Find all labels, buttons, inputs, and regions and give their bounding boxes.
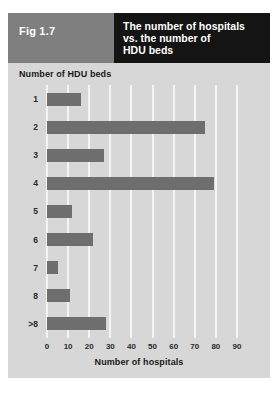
x-axis-tick-labels: 0102030405060708090 <box>47 342 237 356</box>
bar-row: 5 <box>47 197 237 225</box>
bar <box>47 149 104 162</box>
bar-row: 7 <box>47 254 237 282</box>
bar-series: 12345678>8 <box>47 85 237 338</box>
bar-row: 8 <box>47 282 237 310</box>
x-axis-tick-label: 40 <box>127 342 136 351</box>
bar <box>47 261 58 274</box>
y-axis-tick-label: 2 <box>33 122 38 132</box>
bar <box>47 177 214 190</box>
y-axis-tick-label: 3 <box>33 150 38 160</box>
x-axis-tick-label: 80 <box>211 342 220 351</box>
x-axis-tick-label: 90 <box>233 342 242 351</box>
x-axis-tick-label: 30 <box>106 342 115 351</box>
bar-row: 1 <box>47 85 237 113</box>
bar <box>47 121 205 134</box>
figure-panel: Fig 1.7 The number of hospitals vs. the … <box>8 13 270 378</box>
y-axis-title: Number of HDU beds <box>19 69 111 79</box>
y-axis-tick-label: 8 <box>33 291 38 301</box>
bar <box>47 289 70 302</box>
bar <box>47 317 106 330</box>
y-axis-tick-label: 7 <box>33 263 38 273</box>
x-axis-tick-label: 70 <box>190 342 199 351</box>
bar <box>47 93 81 106</box>
x-axis-tick-label: 10 <box>64 342 73 351</box>
x-axis-tick-label: 50 <box>148 342 157 351</box>
plot-area: 12345678>8 <box>47 85 237 338</box>
figure-title-block: The number of hospitals vs. the number o… <box>114 13 270 63</box>
figure-header: Fig 1.7 The number of hospitals vs. the … <box>8 13 270 63</box>
x-axis-tick-label: 20 <box>85 342 94 351</box>
bar-row: 4 <box>47 169 237 197</box>
figure-title-line-3: HDU beds <box>123 44 264 56</box>
y-axis-tick-label: 4 <box>33 178 38 188</box>
figure-title-line-1: The number of hospitals <box>123 20 264 32</box>
bar <box>47 233 93 246</box>
bar <box>47 205 72 218</box>
y-axis-tick-label: 5 <box>33 206 38 216</box>
y-axis-tick-label: >8 <box>28 319 38 329</box>
figure-title-line-2: vs. the number of <box>123 32 264 44</box>
y-axis-tick-label: 1 <box>33 94 38 104</box>
bar-row: 6 <box>47 226 237 254</box>
x-axis-title: Number of hospitals <box>8 357 270 367</box>
figure-label-block: Fig 1.7 <box>8 13 114 63</box>
bar-row: 2 <box>47 113 237 141</box>
x-axis-tick-label: 0 <box>45 342 49 351</box>
x-axis-tick-label: 60 <box>169 342 178 351</box>
bar-row: >8 <box>47 310 237 338</box>
bar-row: 3 <box>47 141 237 169</box>
y-axis-tick-label: 6 <box>33 235 38 245</box>
figure-label: Fig 1.7 <box>19 25 55 37</box>
